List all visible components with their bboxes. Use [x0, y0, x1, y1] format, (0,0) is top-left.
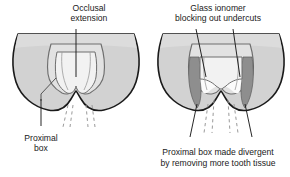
proximal-box-label-line1: Proximal: [24, 133, 58, 143]
left-panel: Occlusal extension Proximal box: [13, 3, 139, 153]
dental-preparation-diagram: Occlusal extension Proximal box: [0, 0, 290, 177]
occlusal-extension-label-line1: Occlusal: [73, 3, 106, 13]
proximal-box-label-line2: box: [34, 143, 49, 153]
left-dashed-line-3: [86, 105, 88, 127]
figure-container: Occlusal extension Proximal box: [0, 0, 290, 177]
right-caption-line2: by removing more tooth tissue: [160, 158, 275, 168]
occlusal-extension-label-line2: extension: [71, 13, 108, 23]
glass-ionomer-label-line2: blocking out undercuts: [175, 13, 261, 23]
right-panel: Glass ionomer blocking out undercuts Pro…: [158, 3, 284, 168]
glass-ionomer-label-line1: Glass ionomer: [190, 3, 246, 13]
right-caption-line1: Proximal box made divergent: [162, 147, 274, 157]
left-dashed-line-2: [70, 105, 73, 127]
